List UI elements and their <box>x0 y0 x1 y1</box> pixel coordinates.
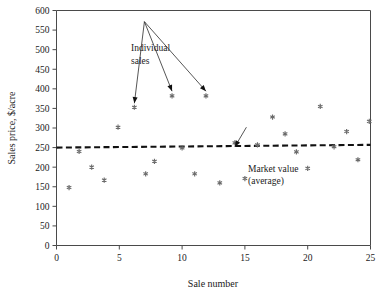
partial-caption-remnant <box>6 0 306 5</box>
individual-sales-1-arrow-head <box>167 84 172 91</box>
y-tick-label-450: 450 <box>35 65 50 75</box>
y-tick-label-250: 250 <box>35 143 50 153</box>
data-point <box>102 177 107 182</box>
figure-container: 050100150200250300350400450500550600 051… <box>0 0 385 294</box>
data-point <box>344 129 349 134</box>
x-tick-label-10: 10 <box>177 253 187 263</box>
individual-sales-0-arrow-head <box>133 97 138 103</box>
y-tick-label-50: 50 <box>40 221 50 231</box>
data-point <box>192 171 197 176</box>
data-point <box>132 105 137 110</box>
data-point <box>204 93 209 98</box>
y-tick-label-0: 0 <box>45 241 50 251</box>
data-point <box>77 149 82 154</box>
y-tick-label-100: 100 <box>35 202 50 212</box>
data-point <box>67 185 72 190</box>
data-point <box>116 125 121 130</box>
scatter-chart: 050100150200250300350400450500550600 051… <box>0 0 385 294</box>
x-axis-title: Sale number <box>188 278 239 289</box>
data-point <box>294 149 299 154</box>
data-point <box>152 159 157 164</box>
data-point <box>356 157 361 162</box>
market-value-average-line <box>57 145 371 148</box>
x-tick-label-5: 5 <box>117 253 122 263</box>
y-axis-ticks: 050100150200250300350400450500550600 <box>35 6 56 251</box>
y-tick-label-150: 150 <box>35 182 50 192</box>
data-point <box>283 131 288 136</box>
data-point <box>218 180 223 185</box>
x-tick-label-20: 20 <box>303 253 313 263</box>
data-point <box>318 104 323 109</box>
market-value-label-line1: Market value <box>248 164 298 174</box>
plot-axes <box>57 11 371 246</box>
data-point <box>243 176 248 181</box>
x-tick-label-15: 15 <box>240 253 250 263</box>
y-tick-label-500: 500 <box>35 45 50 55</box>
data-point <box>270 114 275 119</box>
market-value-label-line2: (average) <box>248 176 284 187</box>
y-tick-label-350: 350 <box>35 104 50 114</box>
y-tick-label-550: 550 <box>35 25 50 35</box>
data-point <box>305 166 310 171</box>
y-axis-title: Sales price, $/acre <box>6 91 17 165</box>
data-point <box>89 165 94 170</box>
data-points-group <box>67 93 372 190</box>
x-tick-label-25: 25 <box>366 253 376 263</box>
y-tick-label-600: 600 <box>35 6 50 16</box>
individual-sales-annotation: Individual sales <box>131 22 206 104</box>
data-point <box>170 93 175 98</box>
data-point <box>143 171 148 176</box>
y-tick-label-300: 300 <box>35 123 50 133</box>
y-tick-label-400: 400 <box>35 84 50 94</box>
y-tick-label-200: 200 <box>35 163 50 173</box>
market-value-arrows <box>235 127 247 147</box>
x-axis-ticks: 0510152025 <box>54 246 375 263</box>
individual-sales-2-arrow-shaft <box>144 22 206 92</box>
x-tick-label-0: 0 <box>54 253 59 263</box>
